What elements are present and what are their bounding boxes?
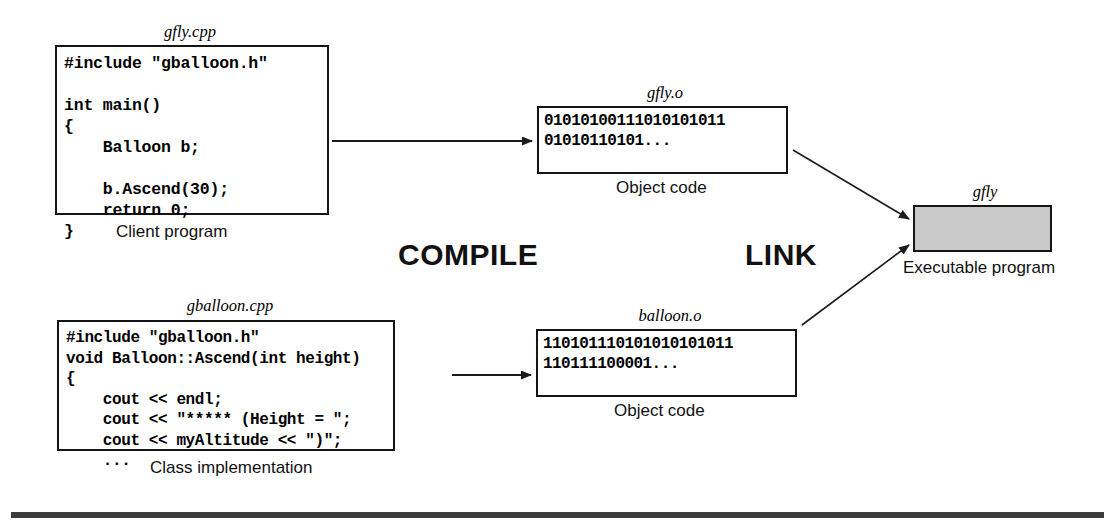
- source-code-text-gfly-cpp: #include "gballoon.h" int main() { Ballo…: [57, 47, 327, 242]
- compile-link-diagram: gfly.cpp #include "gballoon.h" int main(…: [0, 0, 1115, 529]
- caption-object-code-balloon-o: Object code: [614, 401, 705, 421]
- caption-client-program: Client program: [116, 222, 228, 242]
- caption-executable-program: Executable program: [903, 258, 1055, 278]
- process-label-compile: COMPILE: [398, 238, 538, 272]
- executable-program-box: [913, 205, 1052, 252]
- object-code-box-balloon-o: 110101110101010101011 110111100001...: [536, 329, 797, 397]
- bottom-divider: [11, 512, 1104, 518]
- object-code-bits-gfly-o: 01010100111010101011 01010110101...: [539, 108, 786, 151]
- caption-object-code-gfly-o: Object code: [616, 178, 707, 198]
- link-arrow-gfly-o: [793, 150, 909, 219]
- file-label-gfly-executable: gfly: [945, 182, 1025, 202]
- source-code-box-gfly-cpp: #include "gballoon.h" int main() { Ballo…: [55, 45, 329, 215]
- file-label-gfly-cpp: gfly.cpp: [110, 22, 270, 42]
- file-label-gballoon-cpp: gballoon.cpp: [140, 296, 320, 316]
- caption-class-implementation: Class implementation: [150, 458, 313, 478]
- object-code-bits-balloon-o: 110101110101010101011 110111100001...: [538, 331, 795, 374]
- file-label-balloon-o: balloon.o: [605, 306, 735, 326]
- process-label-link: LINK: [745, 238, 817, 272]
- object-code-box-gfly-o: 01010100111010101011 01010110101...: [537, 106, 788, 174]
- source-code-box-gballoon-cpp: #include "gballoon.h" void Balloon::Asce…: [57, 320, 395, 451]
- source-code-text-gballoon-cpp: #include "gballoon.h" void Balloon::Asce…: [59, 322, 393, 472]
- file-label-gfly-o: gfly.o: [605, 83, 725, 103]
- link-arrow-balloon-o: [802, 245, 909, 325]
